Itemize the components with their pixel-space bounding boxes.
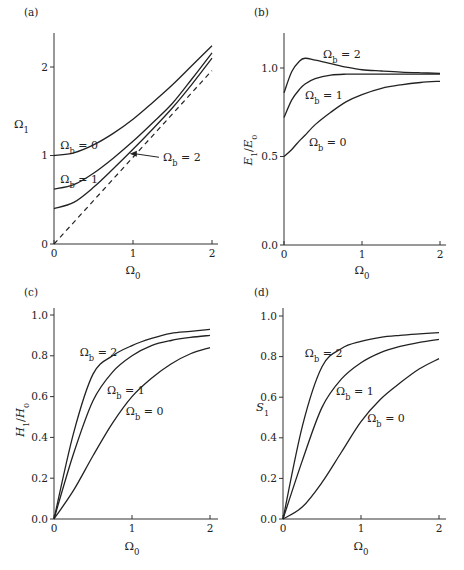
panel-d: (d)0120.00.20.40.60.81.0Ω0S1Ωb = 2Ωb = 1…	[254, 286, 446, 557]
x-tick-label: 0	[280, 522, 287, 534]
x-tick-label: 2	[207, 522, 214, 534]
series-curve	[283, 333, 439, 519]
series-curve	[283, 359, 439, 519]
curve-label: Ωb = 0	[60, 139, 98, 156]
y-tick-label: 0.0	[260, 513, 277, 525]
x-tick-label: 0	[281, 248, 288, 260]
y-tick-label: 0.4	[31, 431, 48, 443]
figure: (a)012012Ω0Ω1Ωb = 0Ωb = 1Ωb = 2 (b)0120.…	[0, 0, 464, 570]
y-tick-label: 0.0	[31, 513, 48, 525]
curve-label: Ωb = 0	[309, 136, 347, 153]
series-curve	[54, 335, 210, 519]
y-tick-label: 0	[41, 238, 48, 250]
panel-label: (a)	[24, 6, 38, 18]
series-curve	[283, 339, 439, 519]
x-axis-label: Ω0	[125, 263, 140, 281]
axes	[283, 308, 446, 519]
series-curve	[54, 348, 210, 519]
y-tick-label: 0.0	[261, 239, 278, 251]
y-tick-label: 0.8	[31, 349, 48, 361]
panel-c: (c)0120.00.20.40.60.81.0Ω0H1/H0Ωb = 2Ωb …	[13, 286, 218, 557]
curve-label: Ωb = 0	[126, 405, 164, 422]
x-tick-label: 2	[436, 522, 443, 534]
x-tick-label: 1	[130, 247, 137, 259]
y-tick-label: 0.2	[31, 472, 48, 484]
panel-a: (a)012012Ω0Ω1Ωb = 0Ωb = 1Ωb = 2	[14, 6, 218, 281]
panel-label: (b)	[254, 6, 269, 18]
series-curve	[54, 329, 210, 519]
y-tick-label: 0.2	[260, 472, 277, 484]
curve-label: Ωb = 1	[305, 89, 343, 106]
curve-label: Ωb = 2	[305, 347, 343, 364]
x-axis-label: Ω0	[354, 263, 369, 281]
curve-label: Ωb = 2	[323, 48, 361, 65]
series-curve	[54, 53, 212, 189]
curve-label: Ωb = 1	[336, 385, 374, 402]
y-tick-label: 0.5	[261, 150, 278, 162]
x-axis-label: Ω0	[353, 539, 368, 557]
curve-label: Ωb = 0	[367, 412, 405, 429]
y-axis-label: E1/E0	[241, 135, 259, 167]
curve-label: Ωb = 2	[80, 346, 118, 363]
y-tick-label: 1.0	[260, 310, 277, 322]
panel-b: (b)0120.00.51.0Ω0E1/E0Ωb = 2Ωb = 1Ωb = 0	[241, 6, 446, 281]
panel-label: (c)	[24, 286, 38, 298]
y-tick-label: 2	[41, 61, 48, 73]
x-tick-label: 2	[437, 248, 444, 260]
panel-label: (d)	[254, 286, 269, 298]
annotation-arrow	[135, 154, 159, 158]
x-tick-label: 1	[358, 522, 365, 534]
x-axis-label: Ω0	[124, 539, 139, 557]
curve-label: Ωb = 2	[163, 151, 201, 168]
y-tick-label: 1.0	[261, 62, 278, 74]
x-tick-label: 0	[51, 247, 58, 259]
y-axis-label: H1/H0	[13, 403, 31, 438]
y-tick-label: 0.8	[260, 350, 277, 362]
y-tick-label: 1	[41, 149, 48, 161]
y-tick-label: 0.4	[260, 431, 277, 443]
y-axis-label: Ω1	[14, 117, 29, 135]
curve-label: Ωb = 1	[107, 384, 145, 401]
x-tick-label: 1	[359, 248, 366, 260]
x-tick-label: 1	[129, 522, 136, 534]
y-tick-label: 1.0	[31, 309, 48, 321]
y-tick-label: 0.6	[31, 390, 48, 402]
x-tick-label: 0	[51, 522, 58, 534]
x-tick-label: 2	[209, 247, 216, 259]
